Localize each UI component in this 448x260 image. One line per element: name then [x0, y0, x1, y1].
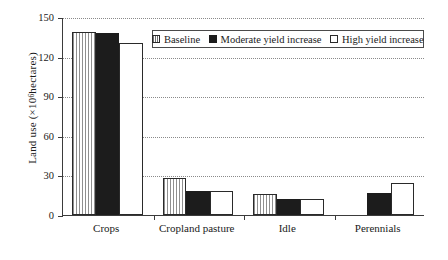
y-axis-tick-label: 30: [44, 170, 55, 181]
legend-label-high-yield-increase: High yield increase: [342, 34, 424, 45]
bar-crops-high-yield-increase: [119, 43, 143, 215]
bar-crops-baseline: [72, 32, 96, 215]
bar-idle-high-yield-increase: [300, 199, 324, 215]
legend-swatch-hatch-icon: [152, 35, 160, 43]
bar-idle-baseline: [253, 194, 277, 215]
bar-idle-moderate-yield-increase: [277, 199, 301, 215]
x-axis-tick: [154, 215, 155, 220]
y-axis-tick-label: 150: [38, 12, 54, 23]
gridline: [63, 18, 424, 19]
legend-item-moderate-yield-increase[interactable]: Moderate yield increase: [209, 34, 321, 45]
legend-swatch-open-icon: [330, 35, 338, 43]
bar-cropland-pasture-moderate-yield-increase: [186, 191, 210, 215]
y-axis-tick-label: 90: [44, 91, 55, 102]
y-axis-tick: 0: [58, 216, 63, 217]
x-axis-tick: [244, 215, 245, 220]
bar-perennials-high-yield-increase: [391, 183, 415, 215]
bar-crops-moderate-yield-increase: [96, 33, 120, 215]
legend-item-baseline[interactable]: Baseline: [152, 34, 200, 45]
chart-legend[interactable]: Baseline Moderate yield increase High yi…: [152, 30, 424, 48]
y-axis-title-prefix: Land use (×10: [26, 98, 38, 164]
x-axis-tick: [335, 215, 336, 220]
y-axis-tick-label: 0: [49, 210, 54, 221]
bar-perennials-moderate-yield-increase: [367, 193, 391, 215]
legend-label-baseline: Baseline: [164, 34, 200, 45]
bar-cropland-pasture-baseline: [163, 178, 187, 215]
legend-swatch-solid-icon: [209, 35, 217, 43]
x-axis-label-perennials: Perennials: [318, 222, 438, 234]
legend-item-high-yield-increase[interactable]: High yield increase: [330, 34, 423, 45]
bar-cropland-pasture-high-yield-increase: [210, 191, 234, 215]
y-axis-title-suffix: hectares): [26, 52, 38, 94]
y-axis-tick-label: 120: [38, 52, 54, 63]
y-axis-tick-label: 60: [44, 131, 55, 142]
legend-label-moderate-yield-increase: Moderate yield increase: [221, 34, 322, 45]
y-axis-title: Land use (×106 hectares): [22, 0, 42, 216]
bar-chart-figure: Land use (×106 hectares) 0306090120150 C…: [0, 0, 448, 260]
